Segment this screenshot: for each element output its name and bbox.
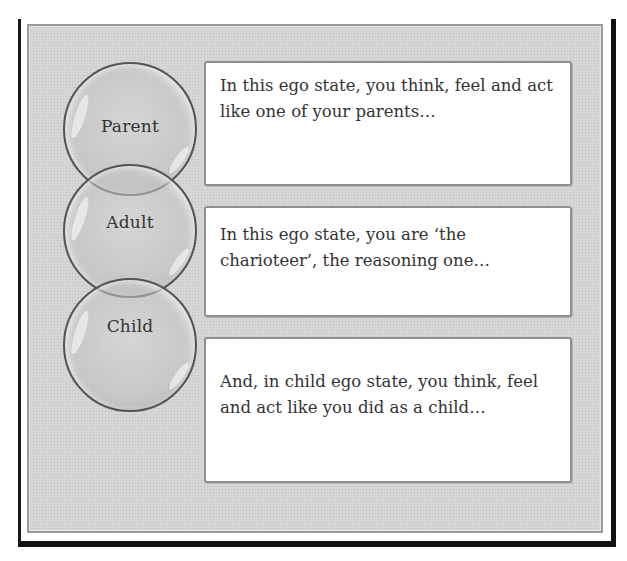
description-text-child: And, in child ego state, you think, feel…	[220, 369, 560, 421]
description-box-child: And, in child ego state, you think, feel…	[204, 337, 572, 483]
circle-label-child: Child	[65, 316, 195, 336]
description-text-adult: In this ego state, you are ‘the chariote…	[220, 222, 560, 274]
circle-label-adult: Adult	[65, 212, 195, 232]
circle-label-parent: Parent	[65, 116, 195, 136]
ego-state-circle-child: Child	[63, 278, 197, 412]
description-box-adult: In this ego state, you are ‘the chariote…	[204, 206, 572, 317]
description-box-parent: In this ego state, you think, feel and a…	[204, 61, 572, 186]
description-text-parent: In this ego state, you think, feel and a…	[220, 73, 560, 125]
